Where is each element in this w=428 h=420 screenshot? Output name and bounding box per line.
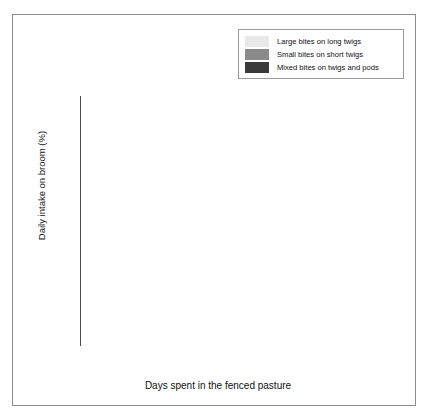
chart-legend: Large bites on long twigs Small bites on… bbox=[238, 29, 404, 79]
plot-area bbox=[87, 96, 349, 346]
legend-label-large-bites: Large bites on long twigs bbox=[277, 36, 361, 47]
figure-frame: Large bites on long twigs Small bites on… bbox=[12, 14, 416, 406]
legend-item-large-bites: Large bites on long twigs bbox=[245, 35, 397, 47]
bars-container bbox=[87, 96, 349, 346]
y-axis-line bbox=[80, 96, 81, 346]
legend-swatch-small-bites bbox=[245, 49, 269, 60]
legend-swatch-mixed-bites bbox=[245, 62, 269, 73]
legend-item-mixed-bites: Mixed bites on twigs and pods bbox=[245, 61, 397, 73]
legend-swatch-large-bites bbox=[245, 36, 269, 47]
y-axis-title: Daily intake on broom (%) bbox=[36, 96, 47, 276]
legend-item-small-bites: Small bites on short twigs bbox=[245, 48, 397, 60]
legend-label-mixed-bites: Mixed bites on twigs and pods bbox=[277, 62, 379, 73]
x-axis-title: Days spent in the fenced pasture bbox=[87, 380, 349, 391]
legend-label-small-bites: Small bites on short twigs bbox=[277, 49, 363, 60]
